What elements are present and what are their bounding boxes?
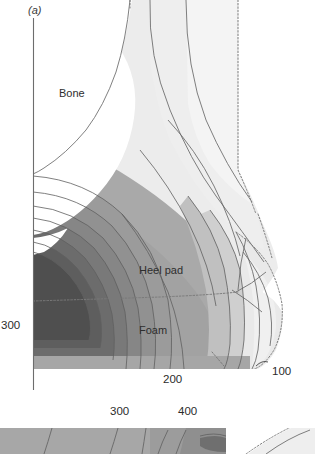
region-label-bone: Bone <box>59 87 85 99</box>
panel-b-plot-area <box>0 420 315 454</box>
contour-label-200: 200 <box>163 373 182 385</box>
panel-a-label: (a) <box>28 4 41 16</box>
figure-root: (a) Bone Heel pad Foam 300 200 100 300 4… <box>0 0 315 454</box>
contour-label-100: 100 <box>272 365 291 377</box>
panel-b-fill-right <box>248 420 315 454</box>
region-label-foam: Foam <box>139 324 167 336</box>
contour-plot-svg <box>0 0 315 454</box>
contour-label-300-left: 300 <box>1 319 20 331</box>
contour-label-400-panel-b: 400 <box>178 405 197 417</box>
contour-label-300-panel-b: 300 <box>110 405 129 417</box>
region-label-heel-pad: Heel pad <box>139 264 183 276</box>
contour-fill-group <box>33 0 315 369</box>
panel-a-plot-area <box>33 0 315 369</box>
